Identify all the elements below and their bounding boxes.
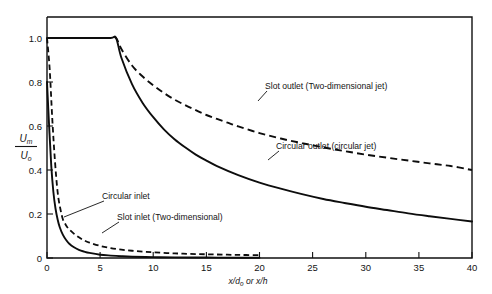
annotation-circular-outlet: Circular outlet (circular jet) [276,141,376,151]
y-tick-label-2: 0.4 [29,165,42,176]
y-tick-label-0: 0 [37,253,42,264]
x-tick-labels: 0 5 10 15 20 25 30 35 40 [44,262,477,273]
leader-slot-outlet [258,91,267,101]
chart-figure: 0 0.2 0.4 0.6 0.8 1.0 0 5 10 15 20 25 [0,0,492,294]
leader-slot-inlet [102,222,119,233]
series-circular-inlet [47,38,260,255]
y-tick-label-5: 1.0 [29,33,42,44]
x-tick-label-5: 25 [307,262,318,273]
annotation-circular-inlet: Circular inlet [102,191,150,201]
plot-frame [47,17,472,258]
x-tick-label-2: 10 [148,262,159,273]
y-axis-label-numerator-sub: m [27,138,33,145]
y-tick-label-4: 0.8 [29,77,42,88]
svg-text:Um: Um [20,133,33,145]
leader-circular-outlet [268,151,279,160]
x-tick-label-4: 20 [254,262,265,273]
x-tick-label-8: 40 [467,262,478,273]
x-axis-label-second: x/h [255,276,268,286]
x-tick-label-1: 5 [97,262,102,273]
y-tick-label-1: 0.2 [29,209,42,220]
annotation-slot-outlet: Slot outlet (Two-dimensional jet) [265,81,387,91]
data-curves [47,37,472,258]
y-axis-label: Um Uo [15,133,37,162]
x-axis-label-conj: or [244,276,256,286]
x-tick-label-3: 15 [201,262,212,273]
leader-circular-inlet [64,201,104,217]
series-slot-outlet [47,37,472,170]
annotation-slot-inlet: Slot inlet (Two-dimensional) [117,212,223,222]
svg-text:x/do or x/h: x/do or x/h [228,276,268,287]
x-tick-label-6: 30 [361,262,372,273]
y-axis-label-denominator-sub: o [28,155,32,162]
annotations: Slot outlet (Two-dimensional jet) Circul… [102,81,387,222]
y-tick-labels: 0 0.2 0.4 0.6 0.8 1.0 [29,33,42,264]
x-axis-label: x/do or x/h [228,276,268,287]
y-tick-label-3: 0.6 [29,121,42,132]
chart-svg: 0 0.2 0.4 0.6 0.8 1.0 0 5 10 15 20 25 [0,0,492,294]
x-tick-label-0: 0 [44,262,49,273]
x-tick-label-7: 35 [414,262,425,273]
svg-text:Uo: Uo [20,150,31,162]
